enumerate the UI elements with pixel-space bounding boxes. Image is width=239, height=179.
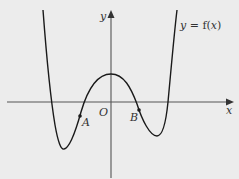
- function-graph: y x O A B y = f(x): [0, 0, 239, 179]
- curve-f: [43, 10, 177, 149]
- x-axis-label: x: [226, 104, 233, 117]
- origin-label: O: [99, 106, 108, 119]
- y-axis-arrow-icon: [108, 10, 115, 18]
- curve-label: y = f(x): [179, 19, 221, 32]
- y-axis-label: y: [99, 10, 107, 23]
- point-a-label: A: [81, 116, 90, 129]
- point-b-label: B: [129, 111, 138, 124]
- graph-canvas: y x O A B y = f(x): [0, 0, 239, 179]
